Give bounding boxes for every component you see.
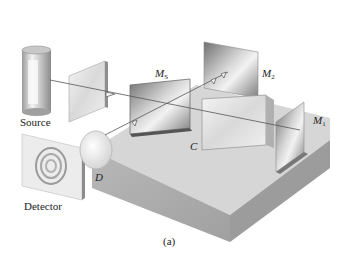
lens-label: D [95,171,103,183]
compensator-label: C [190,140,197,152]
mirror1-label: M1 [313,114,326,128]
figure-caption: (a) [163,235,175,247]
source-lamp [22,46,51,116]
interferometer-diagram [0,0,347,265]
source-label: Source [20,116,51,128]
detector-screen [22,134,85,200]
collimating-plate [69,61,108,122]
mirror2-label: M2 [262,67,275,81]
detector-label: Detector [24,200,62,212]
beam-splitter [130,79,192,137]
beam-splitter-label: MS [155,67,168,81]
mirror-m2 [204,42,258,98]
lens-d [80,131,112,169]
